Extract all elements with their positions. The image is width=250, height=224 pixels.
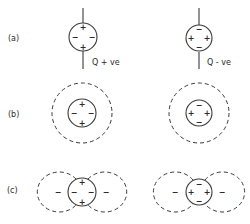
sign-left: −: [72, 33, 79, 42]
sign-bottom: +: [79, 119, 86, 128]
panel-c: (c) + + − − − − − − + + − −: [7, 172, 245, 212]
panel-a: (a) + + − − Q + ve − − + + Q - ve: [8, 8, 231, 69]
sign-bottom: −: [196, 118, 203, 127]
sign-top: +: [79, 178, 86, 187]
sign-right: −: [89, 33, 96, 42]
lobe-sign-left: −: [55, 188, 62, 197]
outer-dashed-boundary: [52, 83, 112, 143]
sign-top: −: [196, 101, 203, 110]
sign-bottom: +: [79, 198, 86, 207]
panel-label-a: (a): [8, 34, 19, 43]
sign-right: +: [204, 188, 211, 197]
lobe-sign-left: −: [172, 188, 179, 197]
panel-label-c: (c): [7, 186, 18, 195]
sign-bottom: −: [196, 43, 203, 52]
outer-dashed-boundary: [169, 83, 229, 143]
sign-top: +: [80, 23, 87, 32]
sign-right: −: [88, 188, 95, 197]
lobe-sign-right: −: [103, 188, 110, 197]
positive-quadrupole: + + − − Q + ve: [69, 8, 120, 69]
sign-left: +: [188, 34, 195, 43]
sign-right: +: [204, 109, 211, 118]
panel-b: (b) + + − − − − + +: [8, 83, 229, 143]
negative-quadrupole-lobes: − − + + − −: [153, 172, 244, 212]
positive-quadrupole-lobes: + + − − − −: [37, 172, 126, 212]
sign-top: −: [196, 25, 203, 34]
negative-quadrupole: − − + + Q - ve: [186, 8, 231, 69]
sign-left: −: [71, 188, 78, 197]
panel-label-b: (b): [8, 110, 19, 119]
sign-right: +: [204, 34, 211, 43]
quadrupole-diagram: (a) + + − − Q + ve − − + + Q - ve (b): [0, 0, 250, 224]
sign-left: +: [188, 188, 195, 197]
negative-quadrupole-sphere: − − + +: [169, 83, 229, 143]
sign-bottom: −: [196, 197, 203, 206]
annotation-q-negative: Q - ve: [207, 58, 231, 67]
sign-top: +: [79, 100, 86, 109]
positive-quadrupole-sphere: + + − −: [52, 83, 112, 143]
sign-bottom: +: [80, 43, 87, 52]
sign-left: −: [71, 109, 78, 118]
annotation-q-positive: Q + ve: [92, 58, 120, 67]
sign-right: −: [88, 109, 95, 118]
sign-left: +: [188, 109, 195, 118]
lobe-sign-right: −: [219, 188, 226, 197]
sign-top: −: [196, 180, 203, 189]
